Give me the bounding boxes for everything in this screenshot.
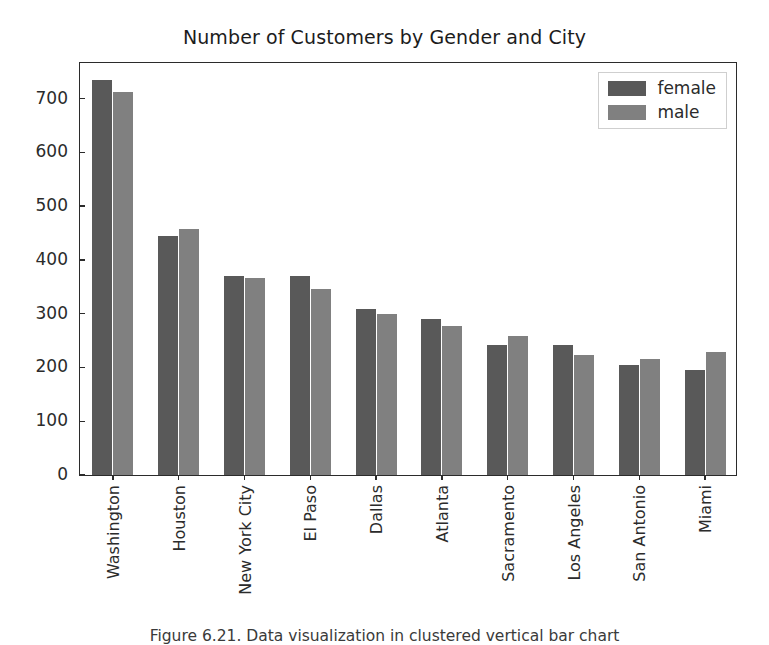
y-axis-tick-label: 500 (36, 195, 68, 215)
bar-male-atlanta (442, 326, 462, 475)
bar-female-atlanta (421, 319, 441, 475)
legend-label-female: female (657, 80, 716, 97)
bar-male-el-paso (311, 289, 331, 475)
legend-swatch-female (608, 81, 646, 96)
figure-caption: Figure 6.21. Data visualization in clust… (0, 627, 769, 645)
bar-male-san-antonio (640, 359, 660, 475)
bar-female-sacramento (487, 345, 507, 475)
y-axis-tick-label: 300 (36, 303, 68, 323)
chart-legend: femalemale (598, 72, 727, 129)
bar-female-miami (685, 370, 705, 475)
bar-male-sacramento (508, 336, 528, 475)
legend-label-male: male (657, 104, 699, 121)
y-axis-tick-mark (80, 421, 85, 422)
bar-female-el-paso (290, 276, 310, 475)
y-axis-tick-label: 600 (36, 141, 68, 161)
bar-female-san-antonio (619, 365, 639, 475)
y-axis-tick-label: 400 (36, 249, 68, 269)
legend-item-female: female (608, 80, 716, 97)
legend-swatch-male (608, 105, 646, 120)
bar-female-washington (92, 80, 112, 475)
y-axis-tick-label: 0 (57, 464, 68, 484)
bar-female-dallas (356, 309, 376, 475)
bar-female-los-angeles (553, 345, 573, 475)
chart-title: Number of Customers by Gender and City (0, 26, 769, 48)
y-axis-tick-label: 200 (36, 356, 68, 376)
y-axis-tick-mark (80, 205, 85, 206)
y-axis-tick-mark (80, 474, 85, 475)
y-axis-tick-mark (80, 259, 85, 260)
bar-female-new-york-city (224, 276, 244, 475)
bar-male-washington (113, 92, 133, 475)
y-axis-tick-mark (80, 152, 85, 153)
y-axis-tick-mark (80, 367, 85, 368)
plot-area: 0100200300400500600700 WashingtonHouston… (79, 62, 737, 476)
legend-item-male: male (608, 104, 716, 121)
bar-male-new-york-city (245, 278, 265, 475)
bar-female-houston (158, 236, 178, 475)
bar-male-miami (706, 352, 726, 475)
y-axis-tick-label: 700 (36, 88, 68, 108)
bar-male-houston (179, 229, 199, 475)
y-axis-tick-mark (80, 98, 85, 99)
bar-male-los-angeles (574, 355, 594, 475)
y-axis-tick-label: 100 (36, 410, 68, 430)
bar-male-dallas (377, 314, 397, 475)
y-axis-tick-mark (80, 313, 85, 314)
